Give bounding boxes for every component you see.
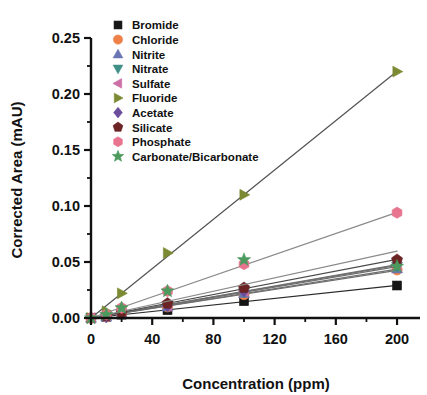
data-point xyxy=(393,281,402,290)
x-tick-label: 40 xyxy=(144,331,160,347)
tick-labels-layer: 0.000.050.100.150.200.2504080120160200 xyxy=(52,30,409,347)
legend-item-label: Bromide xyxy=(132,19,179,31)
series-phosphate xyxy=(86,207,402,324)
x-tick-label: 0 xyxy=(87,331,95,347)
chart-figure: 0.000.050.100.150.200.2504080120160200 B… xyxy=(0,0,427,395)
y-tick-label: 0.25 xyxy=(52,30,80,46)
x-tick-label: 120 xyxy=(263,331,287,347)
legend-item-label: Phosphate xyxy=(132,136,191,148)
y-tick-label: 0.20 xyxy=(52,86,80,102)
legend-marker-diamond-icon xyxy=(114,107,123,118)
legend-item: Silicate xyxy=(113,122,172,134)
y-tick-label: 0.10 xyxy=(52,198,80,214)
y-tick-label: 0.15 xyxy=(52,142,80,158)
y-axis-title: Corrected Area (mAU) xyxy=(8,102,25,259)
legend-item-label: Carbonate/Bicarbonate xyxy=(132,151,259,163)
legend-item: Carbonate/Bicarbonate xyxy=(112,150,258,162)
legend-marker-hexagon-icon xyxy=(114,137,123,147)
legend-item: Phosphate xyxy=(114,136,191,148)
legend-marker-triangle-right-icon xyxy=(114,93,123,103)
legend-item: Nitrite xyxy=(113,49,165,61)
legend-item: Acetate xyxy=(114,107,174,119)
chart-legend: BromideChlorideNitriteNitrateSulfateFluo… xyxy=(112,19,258,162)
legend-item: Sulfate xyxy=(113,78,170,90)
legend-marker-triangle-down-icon xyxy=(113,65,123,74)
legend-marker-triangle-left-icon xyxy=(113,79,122,89)
legend-item: Bromide xyxy=(114,19,179,31)
legend-marker-triangle-up-icon xyxy=(113,49,123,58)
legend-marker-star-icon xyxy=(112,150,124,161)
legend-item: Fluoride xyxy=(114,92,177,104)
legend-item: Chloride xyxy=(113,34,178,46)
data-point xyxy=(392,207,402,218)
legend-item-label: Chloride xyxy=(132,34,179,46)
legend-item-label: Acetate xyxy=(132,107,174,119)
legend-marker-circle-icon xyxy=(113,35,122,44)
data-point xyxy=(393,66,403,77)
legend-item-label: Sulfate xyxy=(132,78,170,90)
data-point xyxy=(162,298,173,309)
legend-marker-pentagon-icon xyxy=(113,122,123,131)
x-tick-label: 200 xyxy=(385,331,409,347)
data-point xyxy=(163,248,173,259)
legend-item: Nitrate xyxy=(113,63,168,75)
data-series-layer xyxy=(84,66,403,324)
x-tick-label: 80 xyxy=(205,331,221,347)
legend-item-label: Fluoride xyxy=(132,92,177,104)
x-tick-label: 160 xyxy=(324,331,348,347)
y-tick-label: 0.00 xyxy=(52,310,80,326)
legend-marker-square-icon xyxy=(114,21,122,29)
y-tick-label: 0.05 xyxy=(52,254,80,270)
x-axis-title: Concentration (ppm) xyxy=(182,375,330,392)
legend-item-label: Nitrate xyxy=(132,63,168,75)
scatter-plot: 0.000.050.100.150.200.2504080120160200 B… xyxy=(0,0,427,395)
legend-item-label: Silicate xyxy=(132,122,172,134)
legend-item-label: Nitrite xyxy=(132,49,165,61)
